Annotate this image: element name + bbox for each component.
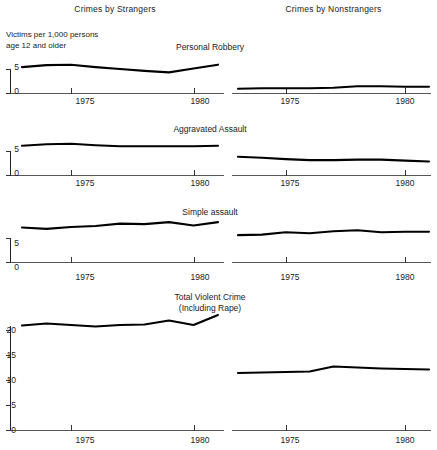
column-header-nonstrangers: Crimes by Nonstrangers bbox=[230, 4, 437, 14]
plot-simple-assault-nonstrangers bbox=[230, 218, 437, 270]
column-header-strangers: Crimes by Strangers bbox=[0, 4, 230, 14]
xtick-label-robbery-strangers-1980: 1980 bbox=[183, 96, 217, 106]
xtick-label-robbery-strangers-1975: 1975 bbox=[68, 96, 102, 106]
xtick-label-total-nonstrangers-1975: 1975 bbox=[273, 435, 307, 445]
ytick-label-total-20: 20 bbox=[0, 325, 16, 335]
panel-title-personal-robbery: Personal Robbery bbox=[120, 42, 300, 53]
panel-title-simple-assault: Simple assault bbox=[120, 207, 300, 218]
ytick-label-simple-0: 0 bbox=[3, 262, 19, 272]
xtick-label-simple-nonstrangers-1980: 1980 bbox=[388, 272, 422, 282]
plot-total-violent-crime-strangers bbox=[0, 318, 230, 436]
small-multiples-figure: Crimes by Strangers Crimes by Nonstrange… bbox=[0, 0, 437, 450]
ytick-label-total-10: 10 bbox=[0, 375, 16, 385]
xtick-label-total-strangers-1975: 1975 bbox=[68, 435, 102, 445]
ytick-label-robbery-0: 0 bbox=[3, 86, 19, 96]
xtick-label-total-nonstrangers-1980: 1980 bbox=[388, 435, 422, 445]
xtick-label-aggravated-strangers-1980: 1980 bbox=[183, 178, 217, 188]
ytick-label-total-0: 0 bbox=[0, 425, 16, 435]
plot-total-violent-crime-nonstrangers bbox=[230, 318, 437, 436]
plot-simple-assault-strangers bbox=[0, 218, 230, 270]
panel-title-aggravated-assault: Aggravated Assault bbox=[120, 124, 300, 135]
xtick-label-robbery-nonstrangers-1980: 1980 bbox=[388, 96, 422, 106]
xtick-label-simple-strangers-1975: 1975 bbox=[68, 272, 102, 282]
panel-title-total-violent-crime: Total Violent Crime (Including Rape) bbox=[120, 292, 300, 313]
xtick-label-simple-strangers-1980: 1980 bbox=[183, 272, 217, 282]
xtick-label-robbery-nonstrangers-1975: 1975 bbox=[273, 96, 307, 106]
ytick-label-robbery-5: 5 bbox=[3, 62, 19, 72]
xtick-label-aggravated-nonstrangers-1980: 1980 bbox=[388, 178, 422, 188]
ytick-label-total-5: 5 bbox=[0, 400, 16, 410]
xtick-label-simple-nonstrangers-1975: 1975 bbox=[273, 272, 307, 282]
y-axis-unit-note: Victims per 1,000 persons age 12 and old… bbox=[6, 30, 98, 51]
xtick-label-aggravated-strangers-1975: 1975 bbox=[68, 178, 102, 188]
ytick-label-aggravated-0: 0 bbox=[3, 168, 19, 178]
ytick-label-total-15: 15 bbox=[0, 350, 16, 360]
xtick-label-aggravated-nonstrangers-1975: 1975 bbox=[273, 178, 307, 188]
xtick-label-total-strangers-1980: 1980 bbox=[183, 435, 217, 445]
ytick-label-aggravated-5: 5 bbox=[3, 144, 19, 154]
ytick-label-simple-5: 5 bbox=[3, 238, 19, 248]
